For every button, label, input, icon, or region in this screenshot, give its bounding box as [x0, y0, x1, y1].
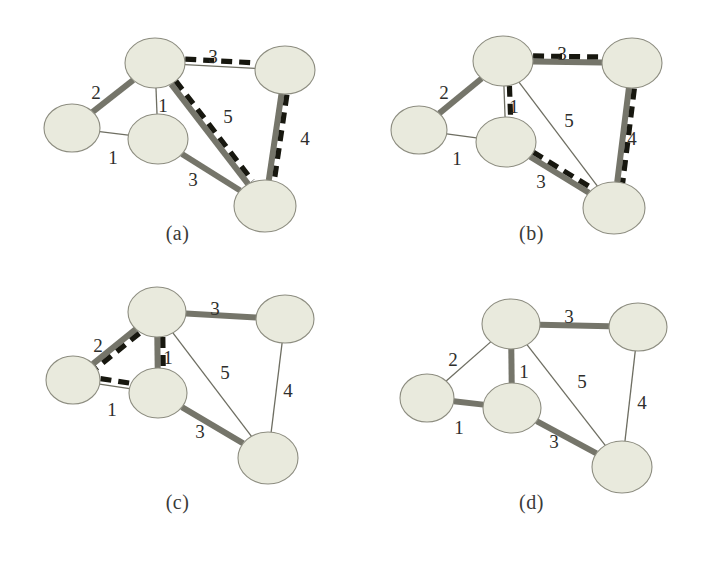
graph-node-bright[interactable]	[592, 441, 652, 493]
edge-weight-label: 3	[195, 421, 205, 442]
edge-weight-label: 2	[439, 82, 449, 103]
graph-node-left[interactable]	[391, 106, 447, 154]
edge-weight-label: 3	[564, 306, 574, 327]
graph-node-mid[interactable]	[483, 383, 541, 433]
panel-caption-a: (a)	[0, 222, 355, 245]
graph-edge-top-tright	[533, 61, 602, 62]
graph-edge-top-tright	[186, 314, 256, 318]
edge-weight-label: 1	[163, 347, 173, 368]
graph-edge-top-tright	[540, 325, 609, 327]
edge-weight-label: 1	[509, 96, 519, 117]
edge-weight-label: 1	[519, 361, 529, 382]
panel-b: 2113534 (b)	[354, 0, 709, 281]
graph-node-mid[interactable]	[128, 114, 188, 164]
graph-edge-top-tright	[185, 65, 255, 69]
edge-layer-a	[93, 65, 282, 191]
cycle-edge-top-tright	[185, 59, 255, 63]
graph-node-top[interactable]	[482, 299, 540, 349]
edge-weight-label: 2	[448, 349, 458, 370]
graph-edge-top-bright	[527, 345, 605, 446]
edge-weight-label: 3	[210, 298, 220, 319]
edge-weight-label: 1	[454, 417, 464, 438]
edge-weight-label: 3	[188, 169, 198, 190]
edge-weight-label: 3	[549, 431, 559, 452]
edge-weight-label: 5	[577, 371, 587, 392]
edge-weight-label: 1	[107, 399, 117, 420]
edge-layer-d	[446, 325, 635, 454]
graph-node-tright[interactable]	[255, 46, 315, 94]
node-layer-c	[46, 287, 314, 484]
panel-a: 2113534 (a)	[0, 0, 355, 281]
graph-node-mid[interactable]	[129, 368, 187, 418]
graph-node-bright[interactable]	[238, 432, 298, 484]
graph-edge-mid-bright	[537, 421, 597, 453]
graph-node-left[interactable]	[400, 374, 454, 422]
graph-edge-top-mid	[504, 86, 505, 117]
graph-node-tright[interactable]	[602, 38, 662, 88]
cycle-edge-top-bright	[176, 81, 253, 181]
edge-weight-label: 1	[108, 147, 118, 168]
graph-edge-left-mid	[447, 134, 477, 138]
node-layer-d	[400, 299, 667, 493]
cycle-edge-left-mid	[100, 379, 130, 384]
graph-node-top[interactable]	[125, 38, 185, 88]
graph-edge-top-mid	[156, 88, 157, 114]
cycle-edge-top-tright	[533, 56, 602, 57]
graph-edge-tright-bright	[271, 343, 282, 432]
edge-weight-label: 4	[300, 128, 310, 149]
edge-weight-label: 1	[452, 148, 462, 169]
graph-node-left[interactable]	[44, 104, 100, 152]
figure-root: 2113534 (a) 2113534 (b) 2113534 (c) 2113…	[0, 0, 709, 561]
graph-node-top[interactable]	[473, 36, 533, 86]
panel-c: 2113534 (c)	[0, 275, 355, 556]
graph-node-top[interactable]	[128, 287, 186, 337]
panel-d: 2113534 (d)	[354, 275, 709, 556]
edge-layer-c	[93, 314, 282, 444]
edge-weight-label: 1	[158, 95, 168, 116]
edge-weight-label: 4	[627, 128, 637, 149]
edge-weight-label: 4	[283, 380, 293, 401]
edge-weight-label: 5	[223, 106, 233, 127]
panel-caption-b: (b)	[354, 222, 709, 245]
panel-caption-d: (d)	[354, 491, 709, 514]
graph-node-mid[interactable]	[476, 117, 536, 167]
edge-weight-label: 4	[637, 392, 647, 413]
cycle-edge-top-left	[96, 333, 139, 368]
edge-weight-label: 3	[557, 43, 567, 64]
panel-caption-c: (c)	[0, 491, 355, 514]
edge-weight-label: 2	[93, 335, 103, 356]
graph-node-tright[interactable]	[256, 295, 314, 343]
graph-edge-left-mid	[100, 132, 129, 136]
edge-layer-b	[439, 61, 629, 192]
graph-edge-tright-bright	[625, 351, 635, 441]
graph-node-left[interactable]	[46, 356, 100, 404]
edge-weight-label: 5	[564, 110, 574, 131]
edge-weight-label: 5	[220, 362, 230, 383]
edge-weight-label: 3	[536, 171, 546, 192]
edge-weight-label: 2	[91, 82, 101, 103]
edge-weight-label: 3	[208, 46, 218, 67]
graph-edge-left-mid	[454, 401, 483, 404]
graph-node-tright[interactable]	[609, 303, 667, 351]
